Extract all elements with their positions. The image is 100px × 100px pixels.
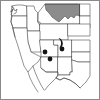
state-nebraska: [68, 24, 90, 36]
state-wyoming: [40, 24, 68, 40]
distribution-map-figure: [0, 0, 100, 100]
occurrence-point-3: [60, 47, 65, 52]
map-canvas: [0, 0, 100, 100]
state-washington: [11, 5, 27, 16]
state-north-dakota: [80, 4, 90, 16]
occurrence-point-1: [43, 50, 48, 55]
state-oklahoma: [72, 52, 90, 62]
occurrence-point-2: [48, 57, 53, 62]
northern-shaded-area: [45, 4, 80, 22]
state-kansas: [72, 40, 90, 52]
shaded-region-group: [45, 4, 80, 22]
state-oregon: [11, 16, 27, 28]
